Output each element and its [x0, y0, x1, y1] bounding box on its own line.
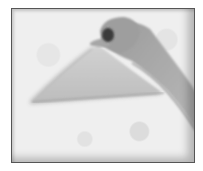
photo-frame	[11, 8, 195, 163]
photo-illustration	[12, 9, 195, 163]
fist-shadow	[102, 28, 114, 42]
